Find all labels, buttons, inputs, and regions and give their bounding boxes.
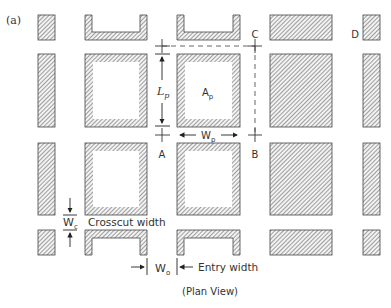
room-and-pillar-plan-diagram: (a) A B C D Lp Ap Wp Wc Crosscut width W… xyxy=(0,0,391,308)
pillar-width-symbol: Wp xyxy=(201,130,216,144)
pillar-row-bottom xyxy=(38,230,380,255)
pillar-length-symbol: Lp xyxy=(156,85,169,100)
point-d-label: D xyxy=(351,29,359,40)
entry-width-label: Entry width xyxy=(198,261,258,273)
pillar-row-top xyxy=(38,15,380,40)
pillar-row-2 xyxy=(38,143,380,215)
figure-caption: (Plan View) xyxy=(182,286,238,297)
entry-width-symbol: Wo xyxy=(155,262,170,277)
crosscut-width-label: Crosscut width xyxy=(88,216,166,228)
point-a-label: A xyxy=(159,149,166,160)
point-b-label: B xyxy=(252,149,259,160)
pillar-row-1 xyxy=(38,54,380,127)
point-c-label: C xyxy=(252,29,259,40)
crosscut-width-symbol: Wc xyxy=(63,216,78,231)
panel-label: (a) xyxy=(6,14,21,27)
